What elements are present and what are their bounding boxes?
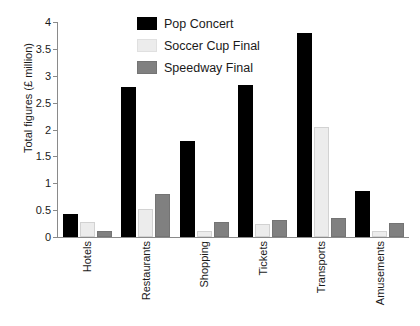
bar-group (351, 22, 410, 237)
bar (80, 222, 95, 237)
bar (197, 231, 212, 237)
bar (389, 223, 404, 237)
y-axis-title: Total figures (£ million) (22, 8, 34, 188)
x-tick-label: Shopping (175, 241, 234, 321)
bar (138, 209, 153, 237)
y-tick-label: 1.5 (36, 151, 51, 162)
x-tick-label-text: Hotels (81, 241, 93, 272)
y-tick-mark (53, 237, 58, 238)
bar (372, 231, 387, 237)
y-tick-label: 3.5 (36, 43, 51, 54)
bar (255, 224, 270, 237)
bar (97, 231, 112, 237)
bar-groups (58, 22, 409, 237)
x-tick-label: Restaurants (117, 241, 176, 321)
x-tick-label-text: Transports (315, 241, 327, 293)
bar (155, 194, 170, 237)
y-tick-label: 0.5 (36, 205, 51, 216)
y-tick-label: 3 (45, 70, 51, 81)
y-tick-label: 2.5 (36, 97, 51, 108)
bar-group (58, 22, 117, 237)
bar-group (234, 22, 293, 237)
y-tick-label: 0 (45, 232, 51, 243)
x-tick-label: Transports (292, 241, 351, 321)
bar (180, 141, 195, 237)
bar (272, 220, 287, 237)
x-tick-label-text: Shopping (198, 241, 210, 288)
bar-group (292, 22, 351, 237)
bar-group (117, 22, 176, 237)
x-tick-label-text: Amusements (374, 241, 386, 305)
y-tick-label: 2 (45, 124, 51, 135)
x-axis-line (57, 237, 409, 238)
bar (297, 33, 312, 237)
bar (121, 87, 136, 238)
x-axis-categories: HotelsRestaurantsShoppingTicketsTranspor… (58, 241, 409, 321)
bar-group (175, 22, 234, 237)
bar (63, 214, 78, 237)
bar (314, 127, 329, 237)
y-tick-label: 1 (45, 178, 51, 189)
bar (214, 222, 229, 237)
bar (331, 218, 346, 237)
bar-chart: Total figures (£ million) Pop Concert So… (0, 0, 420, 326)
y-tick-label: 4 (45, 17, 51, 28)
x-tick-label: Hotels (58, 241, 117, 321)
x-tick-label-text: Restaurants (140, 241, 152, 300)
plot-area: 43.532.521.510.50 (57, 22, 409, 237)
bar (238, 85, 253, 237)
bar (355, 191, 370, 237)
x-tick-label-text: Tickets (257, 241, 269, 275)
x-tick-label: Tickets (234, 241, 293, 321)
x-tick-label: Amusements (351, 241, 410, 321)
